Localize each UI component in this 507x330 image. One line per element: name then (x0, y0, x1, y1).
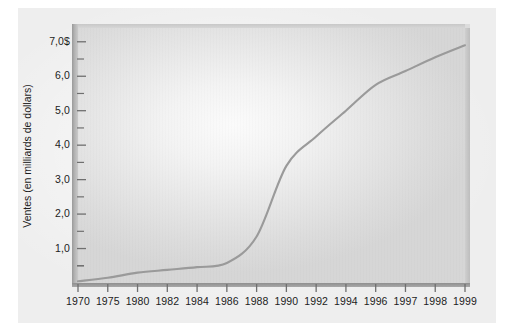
y-tick-label: 2,0 (26, 207, 70, 219)
y-tick-label: 1,0 (26, 242, 70, 254)
plot-paper-texture (78, 28, 465, 283)
y-tick-label: 4,0 (26, 138, 70, 150)
plot-right-bevel (465, 28, 470, 287)
y-tick-label: 7,0$ (26, 35, 70, 47)
y-tick-label: 3,0 (26, 173, 70, 185)
y-tick-label: 6,0 (26, 69, 70, 81)
plot-area (78, 28, 465, 283)
x-tick-label: 1999 (448, 295, 482, 307)
y-tick-label: 5,0 (26, 104, 70, 116)
x-axis-baseline (72, 283, 470, 287)
